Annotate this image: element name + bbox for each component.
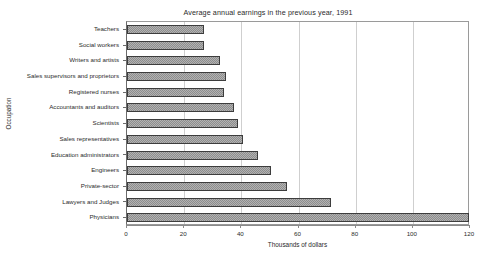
category-label: Registered nurses <box>69 84 119 100</box>
bar-row <box>127 116 470 132</box>
plot-area <box>126 21 469 225</box>
x-tick <box>240 225 241 228</box>
category-label: Physicians <box>89 209 119 225</box>
category-label: Scientists <box>93 115 119 131</box>
x-tick-label: 20 <box>171 230 195 237</box>
bar-row <box>127 69 470 85</box>
x-axis-label: Thousands of dollars <box>126 241 469 248</box>
bar-row <box>127 179 470 195</box>
category-axis: TeachersSocial workersWriters and artist… <box>0 21 123 225</box>
category-label: Social workers <box>79 37 119 53</box>
bar-row <box>127 210 470 226</box>
category-label: Engineers <box>91 162 119 178</box>
bar-row <box>127 195 470 211</box>
x-tick <box>412 225 413 228</box>
bar-row <box>127 100 470 116</box>
bar[interactable] <box>127 135 243 144</box>
bar[interactable] <box>127 213 469 222</box>
category-label: Writers and artists <box>69 52 119 68</box>
bar[interactable] <box>127 103 234 112</box>
x-tick <box>298 225 299 228</box>
bar-series <box>127 22 468 224</box>
category-label: Sales supervisors and proprietors <box>27 68 119 84</box>
bar-row <box>127 85 470 101</box>
category-label: Teachers <box>94 21 119 37</box>
category-label: Accountants and auditors <box>49 99 119 115</box>
x-tick-label: 40 <box>228 230 252 237</box>
bar[interactable] <box>127 72 226 81</box>
category-label: Education administrators <box>51 147 119 163</box>
bar[interactable] <box>127 151 258 160</box>
bar[interactable] <box>127 25 204 34</box>
chart-title: Average annual earnings in the previous … <box>148 8 388 17</box>
bar-row <box>127 163 470 179</box>
bar-row <box>127 132 470 148</box>
bar[interactable] <box>127 119 238 128</box>
bar[interactable] <box>127 198 331 207</box>
bar[interactable] <box>127 56 220 65</box>
bar-row <box>127 38 470 54</box>
x-tick-label: 100 <box>400 230 424 237</box>
bar-chart: Average annual earnings in the previous … <box>0 0 479 254</box>
x-tick <box>126 225 127 228</box>
bar-row <box>127 148 470 164</box>
x-tick-label: 60 <box>286 230 310 237</box>
category-label: Lawyers and Judges <box>62 194 119 210</box>
x-tick-label: 80 <box>343 230 367 237</box>
bar[interactable] <box>127 182 287 191</box>
x-tick <box>183 225 184 228</box>
bar[interactable] <box>127 166 271 175</box>
category-label: Sales representatives <box>59 131 119 147</box>
bar-row <box>127 53 470 69</box>
x-tick <box>469 225 470 228</box>
bar-row <box>127 22 470 38</box>
x-tick <box>355 225 356 228</box>
category-label: Private-sector <box>81 178 119 194</box>
bar[interactable] <box>127 41 204 50</box>
x-tick-label: 120 <box>457 230 479 237</box>
x-tick-label: 0 <box>114 230 138 237</box>
bar[interactable] <box>127 88 224 97</box>
